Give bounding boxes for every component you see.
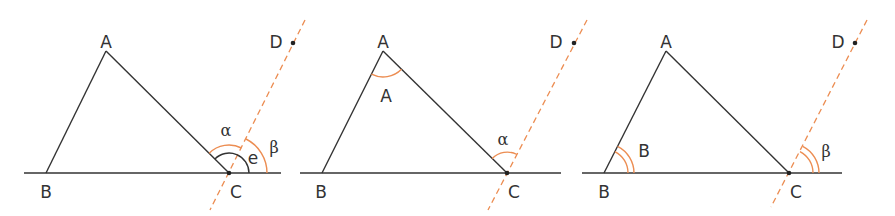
angle-b-arc-outer <box>618 146 634 173</box>
panel-3: A B B C D β <box>582 20 867 207</box>
label-c: C <box>230 182 242 202</box>
point-c <box>505 171 510 176</box>
panel-1: A B C D α β e <box>24 20 305 210</box>
label-alpha: α <box>221 121 232 140</box>
label-a: A <box>377 32 389 52</box>
label-d: D <box>269 32 282 52</box>
point-d <box>572 41 577 46</box>
panel-2: A A B C D α <box>300 20 587 210</box>
label-d: D <box>549 32 562 52</box>
label-d: D <box>831 32 844 52</box>
parallel-line-cd <box>771 20 867 207</box>
side-ab <box>604 51 666 173</box>
label-a: A <box>100 32 112 52</box>
side-ac <box>106 51 229 173</box>
parallel-line-cd <box>488 20 587 210</box>
side-ab <box>322 51 383 173</box>
side-ab <box>46 51 106 173</box>
side-ac <box>666 51 789 173</box>
angle-a-arc <box>371 69 401 77</box>
angle-alpha-arc <box>209 145 241 153</box>
parallel-line-cd <box>210 20 305 210</box>
label-e: e <box>248 148 258 168</box>
label-angle-a: A <box>380 86 392 106</box>
point-c <box>787 171 792 176</box>
label-beta: β <box>821 142 830 161</box>
point-c <box>227 171 232 176</box>
label-b: B <box>315 182 327 202</box>
label-c: C <box>508 182 520 202</box>
triangle-angle-diagrams: A B C D α β e A A B C D α <box>0 0 895 216</box>
point-d <box>291 41 296 46</box>
label-b: B <box>598 182 610 202</box>
angle-beta-arc-outer <box>803 146 819 173</box>
label-angle-b: B <box>638 141 650 161</box>
label-alpha: α <box>498 130 509 149</box>
angle-e-arc <box>215 153 249 173</box>
angle-alpha-arc <box>492 152 517 158</box>
label-beta: β <box>269 138 278 157</box>
label-b: B <box>40 182 52 202</box>
angle-beta-arc-inner <box>800 152 813 173</box>
point-d <box>853 41 858 46</box>
label-c: C <box>790 182 802 202</box>
angle-b-arc-inner <box>615 152 628 173</box>
label-a: A <box>660 32 672 52</box>
